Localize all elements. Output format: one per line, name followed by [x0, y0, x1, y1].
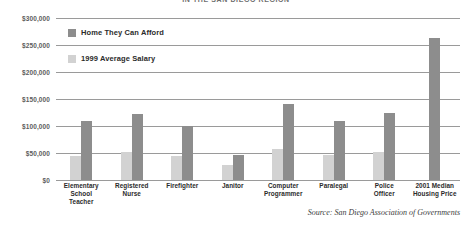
bar-group	[107, 18, 158, 180]
x-axis-category-label: Janitor	[208, 182, 259, 190]
x-axis-label-line: Registered	[115, 182, 149, 189]
legend-label-home-they-can-afford: Home They Can Afford	[81, 28, 164, 37]
x-axis-label-line: 2001 Median	[415, 182, 454, 189]
bar-1999-average-salary	[222, 165, 233, 180]
x-axis-label-line: Computer	[268, 182, 299, 189]
x-axis-label-line: Nurse	[123, 190, 141, 197]
legend-item-1999-average-salary: 1999 Average Salary	[68, 54, 155, 63]
legend-swatch-icon-1999-average-salary	[68, 55, 76, 63]
y-axis-tick-label: $250,000	[0, 42, 50, 49]
bar-home-they-can-afford	[334, 121, 345, 180]
x-axis-label-line: Officer	[374, 190, 395, 197]
bar-home-they-can-afford	[429, 38, 440, 180]
x-axis-label-line: School	[70, 190, 92, 197]
x-axis-category-label: Paralegal	[309, 182, 360, 190]
y-axis-tick-label: $50,000	[0, 150, 50, 157]
bar-home-they-can-afford	[283, 104, 294, 180]
source-note: Source: San Diego Association of Governm…	[308, 208, 460, 217]
bar-home-they-can-afford	[81, 121, 92, 180]
bar-home-they-can-afford	[233, 155, 244, 180]
y-axis-tick-label: $200,000	[0, 69, 50, 76]
x-axis-category-label: RegisteredNurse	[107, 182, 158, 198]
x-axis-label-line: Janitor	[222, 182, 244, 189]
bar-home-they-can-afford	[132, 114, 143, 180]
x-axis-label-line: Police	[375, 182, 394, 189]
x-axis-label-line: Paralegal	[319, 182, 348, 189]
bar-group	[157, 18, 208, 180]
bar-group	[258, 18, 309, 180]
gridline	[56, 180, 460, 181]
bar-1999-average-salary	[272, 149, 283, 180]
x-axis-label-line: Teacher	[69, 198, 93, 205]
x-axis-label-line: Elementary	[64, 182, 99, 189]
chart-title: IN THE SAN DIEGO REGION	[0, 0, 472, 3]
bar-1999-average-salary	[121, 152, 132, 180]
bar-group	[359, 18, 410, 180]
bar-group	[56, 18, 107, 180]
y-axis-tick-label: $300,000	[0, 15, 50, 22]
legend-item-home-they-can-afford: Home They Can Afford	[68, 28, 164, 37]
legend-swatch-icon-home-they-can-afford	[68, 29, 76, 37]
x-axis-label-line: Housing Price	[413, 190, 457, 197]
bar-1999-average-salary	[323, 155, 334, 180]
y-axis-tick-label: $150,000	[0, 96, 50, 103]
plot-area	[56, 18, 460, 180]
y-axis-tick-label: $100,000	[0, 123, 50, 130]
bar-group	[410, 18, 461, 180]
bar-1999-average-salary	[70, 156, 81, 180]
x-axis-label-line: Programmer	[264, 190, 303, 197]
bar-group	[208, 18, 259, 180]
bar-group	[309, 18, 360, 180]
x-axis-category-label: Firefighter	[157, 182, 208, 190]
legend-label-1999-average-salary: 1999 Average Salary	[81, 54, 155, 63]
bar-series-group	[56, 18, 460, 180]
x-axis-category-label: PoliceOfficer	[359, 182, 410, 198]
x-axis-category-label: ElementarySchoolTeacher	[56, 182, 107, 206]
x-axis-category-label: ComputerProgrammer	[258, 182, 309, 198]
y-axis-tick-label: $0	[0, 177, 50, 184]
chart-container: IN THE SAN DIEGO REGION $300,000$250,000…	[0, 0, 472, 225]
x-axis-category-label: 2001 MedianHousing Price	[410, 182, 461, 198]
bar-1999-average-salary	[373, 152, 384, 180]
bar-1999-average-salary	[171, 156, 182, 180]
bar-home-they-can-afford	[182, 126, 193, 180]
bar-home-they-can-afford	[384, 113, 395, 180]
x-axis-label-line: Firefighter	[166, 182, 198, 189]
